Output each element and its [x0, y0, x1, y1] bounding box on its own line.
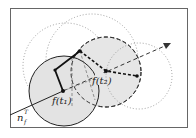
diagram-figure: f(t₁) f(t₂) n T f	[0, 0, 196, 138]
label-f-t1: f(t₁)	[51, 95, 72, 106]
node	[78, 49, 82, 53]
label-t2: f(t₂)	[91, 75, 112, 86]
node-t2	[104, 69, 108, 73]
node-f-t1	[61, 89, 65, 93]
node	[53, 68, 56, 71]
node	[135, 74, 139, 78]
label-normal: n	[17, 112, 23, 123]
